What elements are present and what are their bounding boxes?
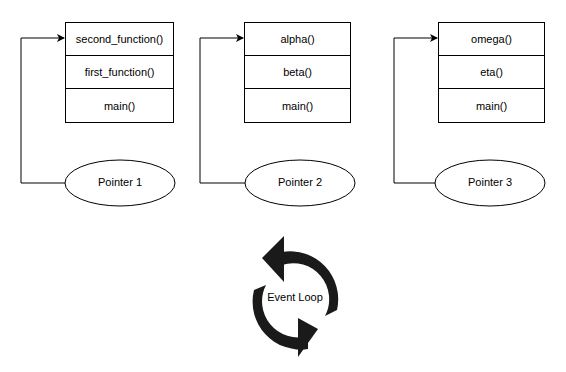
stack-frame: main() [439,89,544,122]
call-stack-3: omega() eta() main() [438,22,545,123]
stack-frame: alpha() [245,23,350,56]
call-stack-1: second_function() first_function() main(… [65,22,174,123]
pointer-1-label: Pointer 1 [65,176,175,188]
event-loop-label: Event Loop [245,291,345,303]
stack-frame: eta() [439,56,544,89]
stack-frame: second_function() [66,23,173,56]
stack-frame: first_function() [66,56,173,89]
pointer-2-label: Pointer 2 [245,176,355,188]
stack-frame: main() [245,89,350,122]
stack-frame: main() [66,89,173,122]
pointer-3-label: Pointer 3 [435,176,545,188]
stack-frame: beta() [245,56,350,89]
call-stack-2: alpha() beta() main() [244,22,351,123]
stack-frame: omega() [439,23,544,56]
